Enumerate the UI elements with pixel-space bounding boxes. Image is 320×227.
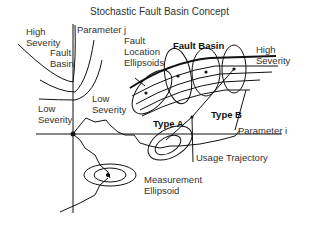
fault-basin-left-label: Fault Basin	[50, 47, 74, 69]
trajectory-point	[190, 115, 193, 118]
trajectory-down	[73, 134, 110, 178]
type-a-label: Type A	[153, 118, 184, 129]
parameter-i-label: Parameter i	[238, 125, 287, 136]
basin-point-2	[176, 74, 179, 77]
measurement-ellipsoid-label: Measurement Ellipsoid	[144, 174, 202, 196]
type-b-label: Type B	[211, 109, 242, 120]
usage-trajectory-label: Usage Trajectory	[196, 152, 268, 163]
origin-point	[71, 132, 76, 137]
fault-location-ellipsoids-label: Fault Location Ellipsoids	[124, 35, 164, 68]
fault-basin-right-label: Fault Basin	[173, 40, 224, 51]
basin-point-4	[232, 67, 235, 70]
basin-point-1	[144, 91, 147, 94]
high-severity-right-label: High Severity	[256, 44, 290, 66]
basin-point-3	[204, 70, 207, 73]
basin-band-1	[132, 66, 278, 96]
low-severity-left-label: Low Severity	[38, 103, 72, 125]
fault-ellipse-1	[125, 63, 180, 121]
parameter-j-label: Parameter j	[77, 24, 126, 35]
trajectory-tail	[60, 178, 108, 212]
high-severity-left-label: High Severity	[26, 26, 60, 48]
basin-band-2	[136, 72, 272, 104]
pointer-usage	[192, 117, 193, 162]
low-severity-mid-label: Low Severity	[92, 93, 126, 115]
diagram-title: Stochastic Fault Basin Concept	[90, 6, 229, 17]
measurement-point	[106, 173, 109, 176]
